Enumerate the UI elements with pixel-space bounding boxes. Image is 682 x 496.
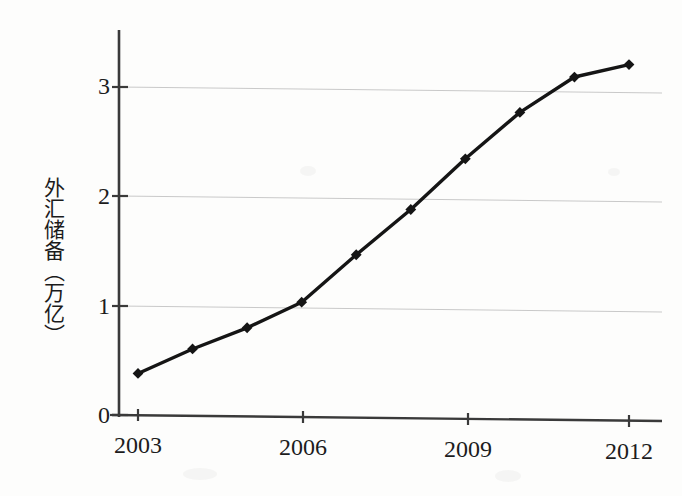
gridlines xyxy=(118,87,662,312)
data-point-marker xyxy=(624,59,635,70)
data-point-marker xyxy=(242,322,253,333)
data-point-markers xyxy=(133,59,635,379)
data-point-marker xyxy=(133,368,144,379)
data-line-series-1 xyxy=(138,65,629,374)
data-point-marker xyxy=(187,344,198,355)
plot-area xyxy=(0,0,682,496)
x-axis-line xyxy=(112,415,662,421)
chart-figure: 外汇储备（万亿） 0 1 2 3 2003 2006 2009 2012 xyxy=(0,0,682,496)
